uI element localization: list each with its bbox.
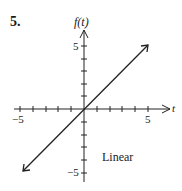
y-max-label: 5 [73, 40, 79, 52]
x-max-label: 5 [145, 113, 151, 125]
x-min-label: −5 [12, 113, 24, 125]
graph [0, 0, 182, 191]
y-axis-label: f(t) [74, 15, 89, 30]
x-axis-label: t [172, 102, 175, 114]
y-min-label: −5 [67, 166, 79, 178]
annotation-label: Linear [102, 150, 133, 165]
